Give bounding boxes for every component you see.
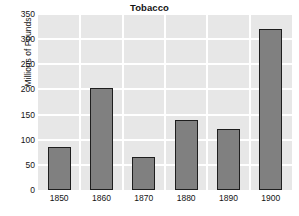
bar	[217, 129, 240, 190]
x-tick-label: 1870	[123, 194, 165, 203]
gridline-vertical	[164, 14, 166, 190]
gridline-vertical	[122, 14, 124, 190]
bar	[132, 157, 155, 190]
x-tick-label: 1900	[250, 194, 292, 203]
x-tick-label: 1880	[165, 194, 207, 203]
y-tick-label: 150	[1, 111, 35, 120]
y-tick-label: 200	[1, 85, 35, 94]
x-tick-label: 1860	[81, 194, 123, 203]
y-tick-label: 50	[1, 161, 35, 170]
bar	[259, 29, 282, 190]
y-axis-tick-labels: 050100150200250300350	[0, 0, 35, 216]
gridline-vertical	[79, 14, 81, 190]
x-tick-label: 1890	[208, 194, 250, 203]
chart-title: Tobacco	[0, 2, 299, 13]
y-tick-label: 100	[1, 136, 35, 145]
bar	[175, 120, 198, 190]
gridline-vertical	[206, 14, 208, 190]
y-tick-label: 0	[1, 186, 35, 195]
y-tick-label: 300	[1, 35, 35, 44]
plot-area	[38, 14, 292, 190]
x-tick-label: 1850	[38, 194, 80, 203]
bar	[90, 88, 113, 190]
bar	[48, 147, 71, 190]
gridline-vertical	[249, 14, 251, 190]
y-tick-label: 250	[1, 60, 35, 69]
y-tick-label: 350	[1, 10, 35, 19]
chart-figure: Tobacco Millions of Pounds 0501001502002…	[0, 0, 299, 216]
